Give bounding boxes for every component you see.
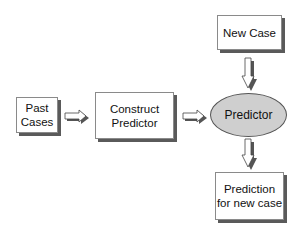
past-cases-label-line1: Past [21, 101, 54, 115]
prediction-box: Prediction for new case [215, 172, 284, 220]
new-case-box: New Case [217, 15, 282, 50]
down-arrow-icon [242, 58, 258, 92]
predictor-label: Predictor [224, 108, 272, 122]
construct-predictor-label-line1: Construct [110, 102, 159, 116]
down-arrow-icon [242, 139, 258, 171]
prediction-label-line2: for new case [217, 196, 282, 210]
construct-predictor-label-line2: Predictor [110, 116, 159, 130]
construct-predictor-box: Construct Predictor [95, 92, 174, 139]
past-cases-label-line2: Cases [21, 115, 54, 129]
prediction-label-line1: Prediction [217, 182, 282, 196]
predictor-ellipse: Predictor [210, 93, 287, 137]
right-arrow-icon [182, 110, 208, 124]
past-cases-box: Past Cases [16, 97, 58, 133]
right-arrow-icon [64, 110, 90, 124]
new-case-label: New Case [223, 26, 276, 40]
